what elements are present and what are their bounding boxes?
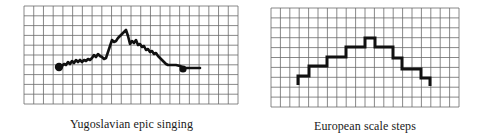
grid-yugoslavian: [24, 6, 238, 104]
start-dot: [55, 63, 63, 71]
caption-european: European scale steps: [314, 119, 416, 134]
yugoslavian-contour: [55, 30, 200, 73]
caption-yugoslavian: Yugoslavian epic singing: [70, 117, 193, 132]
grid-european: [271, 8, 459, 107]
end-dot: [179, 65, 186, 72]
